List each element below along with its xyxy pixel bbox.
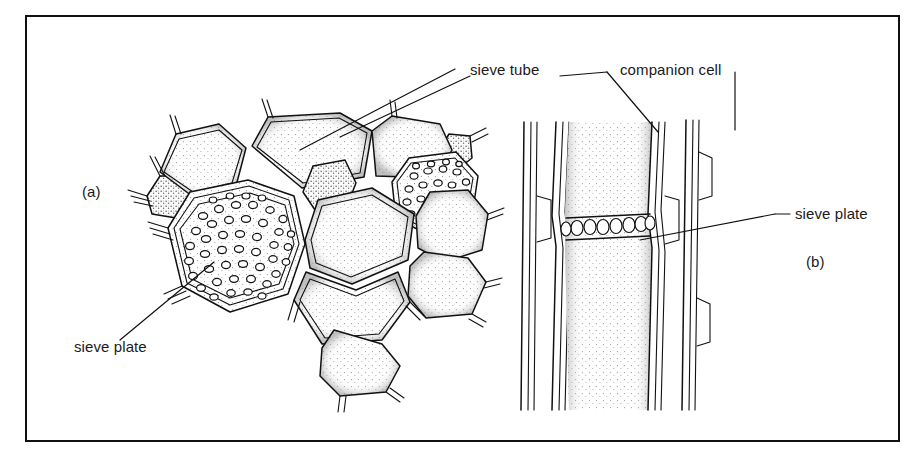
label-sieve-plate-b: sieve plate: [795, 205, 868, 222]
companion-cell-strip-left: [521, 122, 551, 410]
parenchyma-cell-6: [408, 252, 486, 318]
leader-sieve-plate-a: [120, 262, 214, 340]
parenchyma-cell-4: [416, 190, 488, 262]
companion-cell-strip-right: [682, 120, 712, 410]
panel-a-cell-cluster: [128, 99, 504, 412]
illustration-artwork: [0, 0, 921, 462]
label-companion-cell: companion cell: [620, 61, 721, 78]
label-sieve-tube: sieve tube: [470, 61, 539, 78]
label-sieve-plate-a: sieve plate: [74, 338, 147, 355]
panel-label-a: (a): [82, 183, 101, 200]
leader-companion-cell-hook: [560, 72, 607, 76]
panel-label-b: (b): [806, 253, 825, 270]
sieve-tube-wall-right: [648, 122, 679, 410]
parenchyma-cell-7: [320, 330, 400, 396]
sieve-tube-lumen: [565, 122, 652, 410]
panel-b-sieve-tube-longitudinal: [521, 120, 712, 410]
leader-sieve-plate-b: [640, 214, 775, 240]
sieve-tube-cell-with-plate-left: [168, 180, 305, 312]
figure-canvas: sieve tube companion cell sieve plate si…: [0, 0, 921, 462]
